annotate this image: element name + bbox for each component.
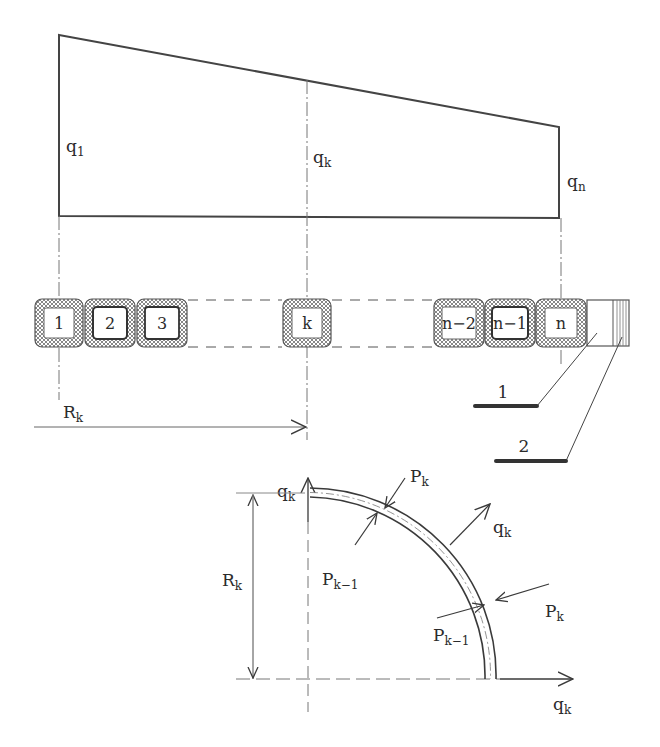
svg-text:k: k [302,314,312,333]
label-pk-minus-1-lower: Pk−1 [433,625,469,648]
turn-cell-n-minus-2: n−2 [434,299,484,347]
outer-layers [587,300,629,346]
force-qk-radial-arrow [450,504,490,545]
figure-canvas: q1 qk qn 1 2 3 k [0,0,660,747]
label-arc-radius: Rk [222,570,243,593]
turn-cell-n-minus-1: n−1 [485,299,535,347]
label-pk-lower: Pk [545,601,564,624]
callout-2: 2 [496,337,622,461]
force-pk-minus-1-upper-arrow [355,513,377,545]
force-pk-minus-1-lower-arrow [437,605,484,618]
turn-cross-section-row: 1 2 3 k n−2 n−1 [35,299,629,461]
label-qk-radial: qk [493,517,512,540]
label-pk-minus-1-upper: Pk−1 [322,569,358,592]
load-trapezoid [59,35,559,218]
label-axis-horizontal: qk [553,694,572,717]
turn-cell-n: n [536,299,586,347]
svg-text:2: 2 [519,436,530,456]
turn-cell-2: 2 [85,299,135,347]
label-qk: qk [313,147,332,170]
svg-text:3: 3 [157,314,167,333]
svg-text:n: n [556,314,566,333]
turn-cell-3: 3 [137,299,187,347]
force-pk-lower-arrow [496,584,549,600]
force-pk-upper-arrow [385,478,405,508]
load-distribution-diagram: q1 qk qn [59,35,586,440]
label-pk-upper: Pk [410,466,429,489]
arc-detail: qk qk Rk Pk Pk−1 qk Pk Pk−1 [222,466,573,717]
svg-text:2: 2 [105,314,115,333]
svg-text:1: 1 [498,382,509,402]
radius-dimension: Rk [34,402,306,427]
svg-text:n−2: n−2 [442,314,476,333]
label-q1: q1 [66,136,85,159]
svg-text:n−1: n−1 [493,314,527,333]
turn-cell-k: k [283,299,331,347]
label-qn: qn [567,171,586,194]
turn-cell-1: 1 [35,299,83,347]
label-radius: Rk [63,402,84,425]
svg-text:1: 1 [54,314,64,333]
